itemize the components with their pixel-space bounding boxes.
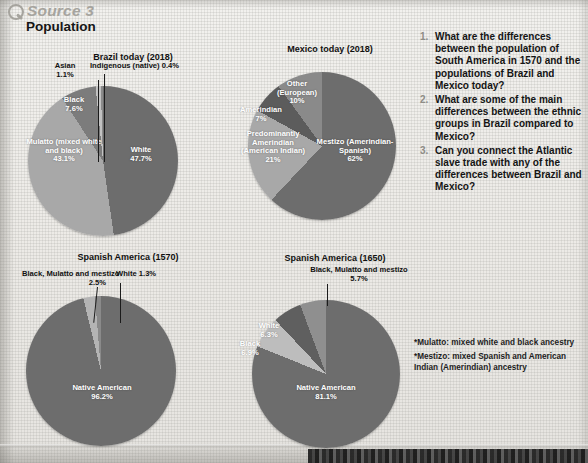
pie-chart-spanish-1570: Native American96.2% [26,296,176,446]
magnifier-q-icon [8,3,25,20]
leader-line-indigenous [104,74,105,162]
source-label: Source 3 [27,2,94,20]
slice-label-black-mulatto-1650: Black, Mulatto and mestizo5.7% [306,266,412,283]
footnote-mestizo: *Mestizo: mixed Spanish and American Ind… [414,352,586,374]
slice-label-black: Black7.6% [54,96,94,113]
question-number-3: 3. [420,145,431,194]
question-text-1: What are the differences between the pop… [435,31,584,92]
slice-label-black-mulatto-1570: Black, Mulatto and mestizo2.5% [22,270,106,287]
slice-label-mestizo: Mestizo (Amerindian-Spanish)62% [308,138,402,164]
slice-label-white-1570: White 1.3% [116,270,156,279]
leader-line-black-mulatto-1650 [327,284,328,306]
chart-title-spanish-1650: Spanish America (1650) [250,253,420,263]
page-title: Population [26,19,96,34]
pie-spanish-1570-disc [26,296,176,446]
question-item-3: 3. Can you connect the Atlantic slave tr… [420,145,584,194]
page-edge-left [0,0,14,463]
pie-chart-mexico: Mestizo (Amerindian-Spanish)62% Predomin… [248,72,396,220]
slice-label-white-1650: White6.3% [247,322,291,339]
question-text-2: What are some of the main differences be… [435,94,584,143]
question-item-1: 1. What are the differences between the … [420,31,584,92]
leader-line-asian [98,80,99,162]
slice-label-other-european: Other (European)10% [270,80,324,106]
footnotes: *Mulatto: mixed white and black ancestry… [414,338,586,377]
leader-line-white-1570 [120,283,121,323]
question-text-3: Can you connect the Atlantic slave trade… [435,145,584,194]
slice-label-indigenous: Indigenous (native) 0.4% [90,62,179,71]
slice-label-amerindian: Amerindian7% [232,106,290,123]
slice-label-asian: Asian1.1% [48,62,82,79]
chart-title-mexico: Mexico today (2018) [250,44,410,54]
pie-chart-brazil: White47.7% Mulatto (mixed white and blac… [28,86,178,236]
slice-label-native-american-1570: Native American96.2% [64,384,140,401]
slice-label-white: White47.7% [112,146,170,163]
questions-list: 1. What are the differences between the … [420,31,584,195]
pie-chart-spanish-1650: Native American81.1% White6.3% Black6.9% [252,300,400,448]
slice-label-pred-amerindian: Predominantly Amerindian (American India… [236,130,310,165]
footnote-mulatto: *Mulatto: mixed white and black ancestry [414,338,586,349]
source-header: Source 3 [8,2,94,20]
question-number-1: 1. [420,31,431,92]
question-item-2: 2. What are some of the main differences… [420,94,584,143]
next-page-strip [308,449,588,463]
slice-label-mulatto: Mulatto (mixed white and black)43.1% [26,138,102,164]
chart-title-spanish-1570: Spanish America (1570) [48,252,208,262]
source-page: Source 3 Population Brazil today (2018) … [0,0,588,463]
question-number-2: 2. [420,94,431,143]
slice-label-native-american-1650: Native American81.1% [284,384,368,401]
slice-label-black-1650: Black6.9% [228,340,272,357]
